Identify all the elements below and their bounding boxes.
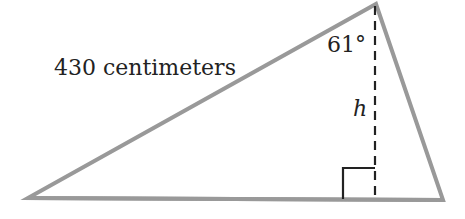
base-line <box>28 198 443 200</box>
right-angle-marker <box>343 168 375 199</box>
angle-label: 61° <box>327 32 366 57</box>
triangle <box>28 4 443 200</box>
triangle-diagram: 430 centimeters 61° h <box>0 0 465 219</box>
height-label: h <box>353 96 367 121</box>
side-length-label: 430 centimeters <box>54 55 236 80</box>
